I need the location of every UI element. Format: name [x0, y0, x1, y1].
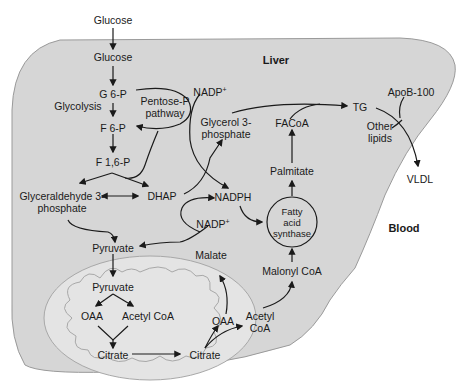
label-fas-line3: synthase [273, 228, 311, 239]
label-nadp-top: NADP+ [193, 86, 226, 98]
label-citrate-cytosol: Citrate [190, 349, 221, 361]
label-other-lipids-line2: lipids [368, 132, 392, 144]
label-glycerol3p-line2: phosphate [201, 128, 250, 140]
label-liver-region: Liver [263, 54, 289, 66]
label-dhap: DHAP [147, 190, 176, 202]
label-gap-line1: Glyceraldehyde 3- [19, 190, 104, 202]
label-facoa: FACoA [275, 117, 308, 129]
label-pentose-line2: pathway [145, 107, 184, 119]
label-g6p: G 6-P [99, 88, 126, 100]
label-mito-citrate: Citrate [98, 349, 129, 361]
label-palmitate: Palmitate [270, 165, 314, 177]
label-malate: Malate [195, 249, 227, 261]
label-blood-region: Blood [388, 222, 419, 234]
label-acetylcoa-cytosol-line1: Acetyl [246, 310, 275, 322]
label-glucose-blood: Glucose [94, 14, 133, 26]
label-nadp-mid: NADP+ [196, 218, 229, 230]
label-mito-pyruvate: Pyruvate [92, 281, 133, 293]
label-tg: TG [353, 101, 368, 113]
label-other-lipids-line1: Other [367, 120, 393, 132]
label-acetylcoa-cytosol-line2: CoA [250, 322, 270, 334]
label-glycerol3p-line1: Glycerol 3- [201, 116, 252, 128]
label-malonylcoa: Malonyl CoA [262, 265, 322, 277]
label-pyruvate-cytosol: Pyruvate [92, 242, 133, 254]
label-glycolysis: Glycolysis [54, 100, 101, 112]
label-gap-line2: phosphate [37, 202, 86, 214]
label-f6p: F 6-P [100, 122, 126, 134]
label-oaa-cytosol: OAA [212, 315, 234, 327]
label-fas-line1: Fatty [281, 206, 302, 217]
label-apob100: ApoB-100 [388, 86, 435, 98]
label-glucose-liver: Glucose [94, 51, 133, 63]
label-f16p: F 1,6-P [96, 156, 130, 168]
label-fas-line2: acid [283, 217, 300, 228]
label-mito-oaa: OAA [81, 310, 103, 322]
label-mito-acetylcoa: Acetyl CoA [122, 310, 174, 322]
label-vldl: VLDL [407, 173, 433, 185]
label-pentose-line1: Pentose-P [140, 95, 189, 107]
label-nadph: NADPH [215, 191, 252, 203]
